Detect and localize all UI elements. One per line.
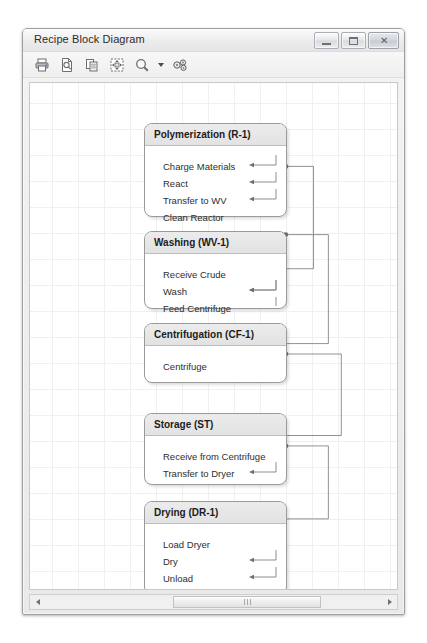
block-storage[interactable]: Storage (ST) Receive from Centrifuge Tra… bbox=[144, 413, 287, 485]
print-preview-button[interactable] bbox=[57, 55, 77, 75]
block-polymerization[interactable]: Polymerization (R-1) Charge Materials Re… bbox=[144, 123, 287, 217]
step-label: Dry bbox=[163, 556, 178, 567]
step-label: Receive Crude bbox=[163, 269, 226, 280]
block-header: Washing (WV-1) bbox=[145, 232, 286, 254]
step-sequence-connectors-lower bbox=[246, 275, 286, 305]
block-header: Drying (DR-1) bbox=[145, 502, 286, 524]
block-drying[interactable]: Drying (DR-1) Load Dryer Dry Unload bbox=[144, 501, 287, 590]
horizontal-scrollbar[interactable] bbox=[29, 594, 398, 610]
scroll-right-button[interactable] bbox=[382, 595, 397, 609]
block-title: Centrifugation (CF-1) bbox=[154, 329, 254, 340]
recipe-block-diagram: Polymerization (R-1) Charge Materials Re… bbox=[30, 83, 397, 589]
copy-icon bbox=[84, 57, 100, 73]
copy-button[interactable] bbox=[82, 55, 102, 75]
step-label: Clean Reactor bbox=[163, 212, 224, 223]
print-button[interactable] bbox=[32, 55, 52, 75]
window-title: Recipe Block Diagram bbox=[34, 33, 145, 45]
zoom-button[interactable] bbox=[132, 55, 152, 75]
chevron-right-icon bbox=[388, 599, 392, 605]
step-label: Unload bbox=[163, 573, 193, 584]
block-washing[interactable]: Washing (WV-1) Receive Crude Wash Feed C… bbox=[144, 231, 287, 309]
grip-line bbox=[244, 599, 245, 605]
grip-line bbox=[250, 599, 251, 605]
step-label: Feed Centrifuge bbox=[163, 303, 231, 314]
settings-button[interactable] bbox=[170, 55, 190, 75]
fit-to-window-icon bbox=[109, 57, 125, 73]
zoom-dropdown-caret-icon[interactable] bbox=[157, 55, 165, 75]
step-label: Load Dryer bbox=[163, 539, 210, 550]
scrollbar-thumb[interactable] bbox=[173, 596, 321, 608]
block-title: Washing (WV-1) bbox=[154, 237, 229, 248]
block-body: Load Dryer Dry Unload bbox=[145, 524, 286, 590]
zoom-icon bbox=[134, 57, 150, 73]
block-body: Centrifuge bbox=[145, 346, 286, 384]
maximize-button[interactable] bbox=[341, 32, 366, 49]
block-header: Centrifugation (CF-1) bbox=[145, 324, 286, 346]
block-title: Drying (DR-1) bbox=[154, 507, 218, 518]
step-label: Transfer to Dryer bbox=[163, 468, 234, 479]
block-title: Polymerization (R-1) bbox=[154, 129, 251, 140]
block-body: Charge Materials React Transfer to WV Cl… bbox=[145, 146, 286, 235]
block-header: Polymerization (R-1) bbox=[145, 124, 286, 146]
step-label: React bbox=[163, 178, 188, 189]
scroll-left-button[interactable] bbox=[30, 595, 45, 609]
block-header: Storage (ST) bbox=[145, 414, 286, 436]
title-bar[interactable]: Recipe Block Diagram ✕ bbox=[23, 29, 404, 52]
step-sequence-connectors bbox=[246, 528, 286, 590]
toolbar bbox=[23, 52, 404, 78]
step-sequence-connectors bbox=[246, 150, 286, 212]
close-button[interactable]: ✕ bbox=[368, 32, 399, 49]
settings-icon bbox=[172, 57, 189, 73]
application-window: Recipe Block Diagram ✕ bbox=[22, 28, 405, 615]
minimize-icon bbox=[322, 43, 331, 45]
print-icon bbox=[34, 57, 50, 73]
close-icon: ✕ bbox=[380, 36, 388, 46]
print-preview-icon bbox=[59, 57, 75, 73]
step-label: Wash bbox=[163, 286, 187, 297]
block-body: Receive Crude Wash Feed Centrifuge bbox=[145, 254, 286, 326]
step-sequence-connectors bbox=[246, 440, 286, 474]
grip-line bbox=[247, 599, 248, 605]
window-controls: ✕ bbox=[314, 32, 399, 49]
chevron-left-icon bbox=[36, 599, 40, 605]
minimize-button[interactable] bbox=[314, 32, 339, 49]
block-title: Storage (ST) bbox=[154, 419, 213, 430]
step-label: Charge Materials bbox=[163, 161, 235, 172]
scrollbar-track[interactable] bbox=[45, 595, 382, 609]
fit-to-window-button[interactable] bbox=[107, 55, 127, 75]
block-body: Receive from Centrifuge Transfer to Drye… bbox=[145, 436, 286, 491]
step-item[interactable]: Centrifuge bbox=[145, 358, 286, 375]
diagram-canvas[interactable]: Polymerization (R-1) Charge Materials Re… bbox=[29, 82, 398, 590]
step-label: Transfer to WV bbox=[163, 195, 227, 206]
step-label: Centrifuge bbox=[163, 361, 207, 372]
block-centrifugation[interactable]: Centrifugation (CF-1) Centrifuge bbox=[144, 323, 287, 383]
maximize-icon bbox=[349, 37, 358, 45]
